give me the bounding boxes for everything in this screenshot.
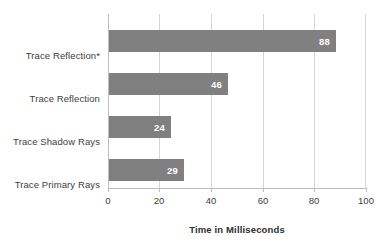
x-axis-line xyxy=(108,188,367,189)
x-axis-title: Time in Milliseconds xyxy=(108,224,366,236)
x-tick-label-0: 0 xyxy=(88,195,128,206)
category-label-trace-reflection: Trace Reflection xyxy=(0,93,100,104)
category-label-trace-reflection-star: Trace Reflection* xyxy=(0,50,100,61)
bar-value-label: 24 xyxy=(154,122,165,133)
bar-trace-shadow-rays[interactable]: 24 xyxy=(109,116,171,138)
bar-trace-primary-rays[interactable]: 29 xyxy=(109,159,184,181)
bar-value-label: 88 xyxy=(319,36,330,47)
bar-trace-reflection[interactable]: 46 xyxy=(109,73,228,95)
bar-value-label: 29 xyxy=(167,165,178,176)
bar-chart: Trace Reflection* Trace Reflection Trace… xyxy=(0,0,389,246)
x-tick-mark-0 xyxy=(108,188,109,192)
category-label-trace-shadow-rays: Trace Shadow Rays xyxy=(0,136,100,147)
category-axis-labels: Trace Reflection* Trace Reflection Trace… xyxy=(0,14,104,188)
x-tick-mark-20 xyxy=(159,188,160,192)
gridline-100 xyxy=(365,14,366,188)
x-tick-label-100: 100 xyxy=(346,195,386,206)
x-tick-mark-80 xyxy=(314,188,315,192)
x-tick-label-80: 80 xyxy=(294,195,334,206)
x-tick-label-20: 20 xyxy=(139,195,179,206)
bar-value-label: 46 xyxy=(211,79,222,90)
x-tick-mark-60 xyxy=(263,188,264,192)
category-label-trace-primary-rays: Trace Primary Rays xyxy=(0,179,100,190)
plot-area: 88 46 24 29 xyxy=(108,14,366,188)
x-tick-mark-40 xyxy=(211,188,212,192)
x-tick-label-40: 40 xyxy=(191,195,231,206)
bar-trace-reflection-star[interactable]: 88 xyxy=(109,30,336,52)
x-tick-label-60: 60 xyxy=(243,195,283,206)
x-tick-mark-100 xyxy=(366,188,367,192)
